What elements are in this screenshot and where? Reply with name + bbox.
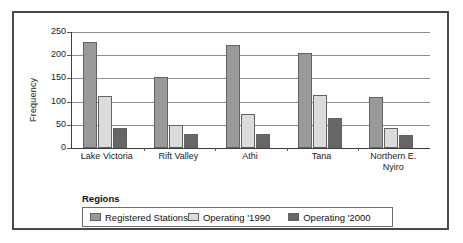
y-axis-tick-mark [67, 32, 71, 33]
x-axis-category-label: Athi [214, 151, 286, 162]
bar-group [215, 32, 287, 148]
chart-frame: Frequency 050100150200250 Lake VictoriaR… [12, 11, 449, 230]
y-axis-tick-labels: 050100150200250 [40, 32, 66, 148]
bar[interactable] [169, 125, 183, 148]
x-axis-tick-labels: Lake VictoriaRift ValleyAthiTanaNorthern… [71, 151, 429, 181]
y-axis-tick-label: 250 [40, 27, 66, 36]
legend-swatch-icon [188, 213, 199, 221]
x-axis-category-label: Lake Victoria [71, 151, 143, 162]
bar[interactable] [384, 128, 398, 148]
bar[interactable] [313, 95, 327, 148]
bar[interactable] [256, 134, 270, 148]
bar[interactable] [226, 45, 240, 148]
x-axis-category-label: Northern E.Nyiro [357, 151, 429, 173]
bar[interactable] [184, 134, 198, 148]
bar-group [287, 32, 359, 148]
y-axis-tick-label: 0 [40, 143, 66, 152]
legend-swatch-icon [90, 213, 101, 221]
y-axis-tick-mark [67, 102, 71, 103]
chart-legend: Registered StationsOperating '1990Operat… [82, 207, 393, 227]
x-axis-title: Regions [82, 193, 119, 204]
y-axis-tick-mark [67, 78, 71, 79]
y-axis-tick-mark [67, 125, 71, 126]
bar[interactable] [369, 97, 383, 149]
legend-item[interactable]: Operating '2000 [288, 208, 370, 226]
y-axis-tick-label: 200 [40, 50, 66, 59]
chart-plot-wrapper: Frequency 050100150200250 Lake VictoriaR… [14, 13, 447, 228]
legend-label: Operating '1990 [203, 212, 270, 223]
bar[interactable] [241, 114, 255, 148]
y-axis-tick-label: 150 [40, 73, 66, 82]
y-axis-tick-label: 100 [40, 97, 66, 106]
bar[interactable] [399, 135, 413, 148]
bar-group [358, 32, 430, 148]
x-axis-category-label: Rift Valley [143, 151, 215, 162]
y-axis-tick-mark [67, 148, 71, 149]
bar[interactable] [328, 118, 342, 148]
bar[interactable] [298, 53, 312, 148]
legend-swatch-icon [288, 213, 299, 221]
bar-group [72, 32, 144, 148]
x-axis-category-label: Tana [286, 151, 358, 162]
legend-item[interactable]: Operating '1990 [188, 208, 270, 226]
legend-label: Operating '2000 [303, 212, 370, 223]
x-axis-category-label-line2: Nyiro [357, 162, 429, 173]
plot-area [71, 32, 430, 149]
legend-item[interactable]: Registered Stations [90, 208, 188, 226]
legend-label: Registered Stations [105, 212, 188, 223]
bar[interactable] [83, 42, 97, 148]
y-axis-tick-mark [67, 55, 71, 56]
y-axis-tick-label: 50 [40, 120, 66, 129]
bar-group [144, 32, 216, 148]
bar[interactable] [98, 96, 112, 148]
bar[interactable] [113, 128, 127, 148]
bar[interactable] [154, 77, 168, 148]
